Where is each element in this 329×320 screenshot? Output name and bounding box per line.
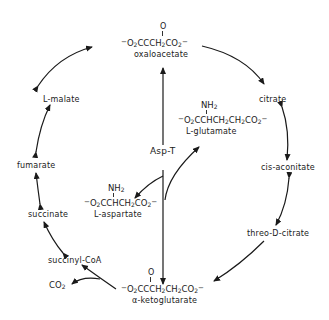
aketoglutarate-label: α-ketoglutarate bbox=[132, 296, 197, 305]
arrow-to-aspartate bbox=[135, 176, 163, 198]
citric-acid-cycle-diagram: O −O2CCCH2CO2− oxaloacetate citrate cis-… bbox=[0, 0, 329, 320]
arrow-co2-release bbox=[72, 278, 100, 284]
arrow-threo-aketoglutarate bbox=[214, 241, 264, 281]
aspartate-formula: −O2CCHCH2CO2− bbox=[84, 197, 157, 210]
aketoglutarate-double-bond bbox=[150, 277, 151, 282]
arrow-fumarate-malate bbox=[36, 105, 50, 152]
aspartate-amine: NH2 bbox=[108, 183, 125, 195]
fumarate-label: fumarate bbox=[17, 161, 55, 170]
l-glutamate-label: L-glutamate bbox=[186, 127, 237, 136]
arrow-oxaloacetate-citrate bbox=[202, 46, 264, 84]
threo-d-citrate-label: threo-D-citrate bbox=[247, 229, 309, 238]
arrow-aketoglutarate-succinylcoa bbox=[82, 265, 116, 289]
succinyl-coa-label: succinyl-CoA bbox=[48, 256, 102, 265]
l-malate-label: L-malate bbox=[43, 95, 80, 104]
l-aspartate-label: L-aspartate bbox=[94, 210, 142, 219]
asp-t-enzyme-label: Asp-T bbox=[150, 147, 175, 156]
citrate-label: citrate bbox=[259, 95, 286, 104]
succinate-label: succinate bbox=[28, 210, 68, 219]
aketoglutarate-carbonyl-o: O bbox=[148, 269, 154, 277]
arrow-succinate-fumarate bbox=[36, 173, 40, 204]
arrow-succinylcoa-succinate bbox=[44, 222, 63, 253]
glutamate-amine: NH2 bbox=[201, 100, 218, 112]
arrow-citrate-cisaconitate bbox=[282, 107, 288, 160]
oxaloacetate-double-bond bbox=[162, 31, 163, 36]
arrow-cisaconitate-threo bbox=[276, 178, 289, 225]
cis-aconitate-label: cis-aconitate bbox=[261, 163, 315, 172]
oxaloacetate-formula: −O2CCCH2CO2− bbox=[121, 37, 188, 50]
glutamate-formula: −O2CCHCH2CH2CO2− bbox=[178, 114, 267, 127]
arrow-malate-oxaloacetate bbox=[38, 47, 92, 86]
aketoglutarate-formula: −O2CCCH2CH2CO2− bbox=[121, 283, 204, 296]
oxaloacetate-label: oxaloacetate bbox=[134, 50, 188, 59]
co2-label: CO2 bbox=[49, 280, 65, 292]
oxaloacetate-carbonyl-o: O bbox=[160, 23, 166, 31]
